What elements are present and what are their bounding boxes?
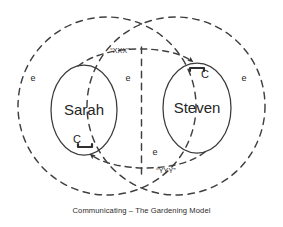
- steven-c-marker: C: [201, 68, 209, 80]
- e-marker-left: e: [30, 73, 35, 83]
- message-xxx-arrow: [78, 49, 193, 66]
- e-marker-right: e: [241, 73, 246, 83]
- e-marker-center-top: e: [125, 73, 130, 83]
- message-yyy-label: “YYY”: [156, 167, 176, 174]
- diagram-caption: Communicating – The Gardening Model: [72, 206, 210, 215]
- message-xxx-label: “XXX”: [110, 47, 130, 54]
- sarah-c-marker: C: [73, 133, 81, 145]
- sarah-label: Sarah: [64, 101, 104, 118]
- diagram-canvas: Sarah Steven C C e e e e “XXX” “YYY” Com…: [0, 0, 283, 227]
- steven-label: Steven: [174, 99, 221, 116]
- e-marker-center-bottom: e: [152, 147, 157, 157]
- gardening-model-diagram: Sarah Steven C C e e e e “XXX” “YYY” Com…: [0, 0, 283, 227]
- message-yyy-arrow: [90, 152, 205, 168]
